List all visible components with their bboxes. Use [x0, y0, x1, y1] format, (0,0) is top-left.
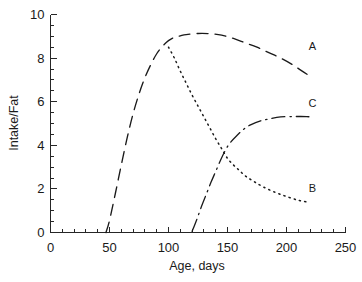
y-tick-label: 0	[37, 225, 44, 240]
x-tick-label: 150	[217, 240, 239, 255]
y-axis-title: Intake/Fat	[7, 95, 21, 151]
series-label-a: A	[309, 40, 317, 52]
x-tick-label: 50	[102, 240, 116, 255]
y-tick-label: 6	[37, 94, 44, 109]
series-label-b: B	[309, 182, 316, 194]
x-tick-label: 100	[158, 240, 180, 255]
x-tick-label: 0	[47, 240, 54, 255]
x-tick-label: 250	[335, 240, 357, 255]
series-label-c: C	[308, 97, 316, 109]
chart-background	[0, 0, 362, 282]
y-tick-label: 8	[37, 51, 44, 66]
chart-figure: 0246810 050100150200250 ABC Intake/Fat A…	[0, 0, 362, 282]
x-axis-title: Age, days	[169, 259, 225, 273]
y-tick-label: 2	[37, 181, 44, 196]
chart-canvas: 0246810 050100150200250 ABC Intake/Fat A…	[0, 0, 362, 282]
x-tick-label: 200	[276, 240, 298, 255]
y-tick-label: 10	[30, 7, 44, 22]
y-tick-label: 4	[37, 138, 44, 153]
